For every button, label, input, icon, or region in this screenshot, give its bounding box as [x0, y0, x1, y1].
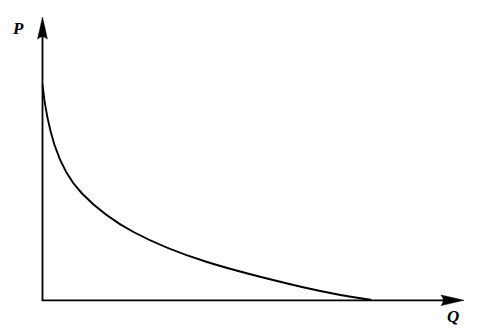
price-axis-label: P — [12, 19, 24, 38]
demand-curve-figure: P Q — [0, 0, 480, 335]
figure-container: P Q — [0, 0, 480, 335]
quantity-axis-label: Q — [447, 307, 459, 326]
figure-background — [0, 0, 480, 335]
